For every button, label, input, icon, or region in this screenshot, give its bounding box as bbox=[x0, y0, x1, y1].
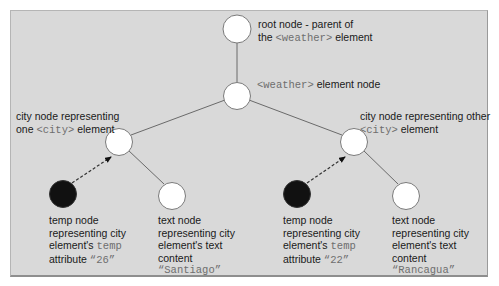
root-label-line1: root node - parent of bbox=[258, 18, 373, 31]
temp-left-node-label: temp node representing city element's te… bbox=[49, 214, 126, 266]
root-label-pre: the bbox=[258, 31, 276, 43]
text-left-line5-code: “Santiago” bbox=[158, 264, 235, 277]
city-left-label-pre: one bbox=[16, 123, 36, 135]
temp-left-line2: representing city bbox=[49, 227, 126, 240]
city-right-label-line2: <city> element bbox=[360, 123, 490, 137]
text-right-node-icon bbox=[393, 183, 420, 210]
root-label-code: <weather> bbox=[276, 32, 333, 44]
text-right-node-label: text node representing city element's te… bbox=[392, 214, 469, 277]
temp-right-node-label: temp node representing city element's te… bbox=[283, 214, 360, 266]
root-label-line2: the <weather> element bbox=[258, 31, 373, 45]
edge-weather-city-right bbox=[249, 100, 342, 135]
temp-left-line4: attribute “26” bbox=[49, 253, 126, 267]
temp-right-line4: attribute “22” bbox=[283, 253, 360, 267]
city-left-label-code: <city> bbox=[36, 124, 74, 136]
city-right-label-post: element bbox=[398, 123, 438, 135]
weather-node-label: <weather> element node bbox=[257, 78, 380, 92]
temp-right-line4-code: “22” bbox=[324, 254, 349, 266]
edge-weather-city-left bbox=[131, 100, 225, 135]
temp-left-line1: temp node bbox=[49, 214, 126, 227]
weather-label-code: <weather> bbox=[257, 79, 314, 91]
city-right-node-label: city node representing other <city> elem… bbox=[360, 110, 490, 136]
text-left-line2: representing city bbox=[158, 227, 235, 240]
text-right-line1: text node bbox=[392, 214, 469, 227]
root-label-post: element bbox=[332, 31, 372, 43]
attribute-arrow-left bbox=[72, 157, 111, 183]
temp-left-node-icon bbox=[50, 181, 77, 208]
text-left-node-icon bbox=[159, 183, 186, 210]
city-left-label-line2: one <city> element bbox=[16, 123, 119, 137]
text-left-line1: text node bbox=[158, 214, 235, 227]
edge-city-right-text bbox=[363, 150, 398, 184]
city-right-label-code: <city> bbox=[360, 124, 398, 136]
city-right-label-line1: city node representing other bbox=[360, 110, 490, 123]
temp-left-line3: element's temp bbox=[49, 239, 126, 253]
city-left-label-line1: city node representing bbox=[16, 110, 119, 123]
text-left-node-label: text node representing city element's te… bbox=[158, 214, 235, 277]
text-left-line4: content bbox=[158, 252, 235, 265]
city-left-node-label: city node representing one <city> elemen… bbox=[16, 110, 119, 136]
root-node-icon bbox=[223, 15, 251, 43]
temp-right-line3: element's temp bbox=[283, 239, 360, 253]
temp-right-line4-pre: attribute bbox=[283, 253, 324, 265]
root-node-label: root node - parent of the <weather> elem… bbox=[258, 18, 373, 44]
text-left-line3: element's text bbox=[158, 239, 235, 252]
temp-left-line3-pre: element's bbox=[49, 239, 97, 251]
text-right-line3: element's text bbox=[392, 239, 469, 252]
city-left-label-post: element bbox=[74, 123, 114, 135]
attribute-arrow-right bbox=[307, 157, 345, 183]
temp-right-line2: representing city bbox=[283, 227, 360, 240]
edge-city-left-text bbox=[128, 150, 164, 184]
temp-left-line4-pre: attribute bbox=[49, 253, 90, 265]
text-right-line5-code: “Rancagua” bbox=[392, 264, 469, 277]
temp-left-line4-code: “26” bbox=[90, 254, 115, 266]
weather-label-post: element node bbox=[314, 78, 381, 90]
temp-right-line3-code: temp bbox=[331, 240, 356, 252]
temp-right-line1: temp node bbox=[283, 214, 360, 227]
text-right-line2: representing city bbox=[392, 227, 469, 240]
temp-right-node-icon bbox=[284, 181, 311, 208]
temp-left-line3-code: temp bbox=[97, 240, 122, 252]
text-right-line4: content bbox=[392, 252, 469, 265]
temp-right-line3-pre: element's bbox=[283, 239, 331, 251]
weather-node-icon bbox=[224, 83, 251, 110]
